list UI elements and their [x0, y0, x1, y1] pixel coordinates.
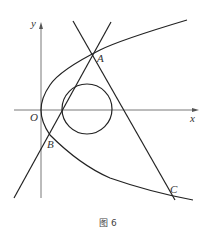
- point-B-label: B: [47, 138, 54, 150]
- inscribed-circle: [62, 84, 112, 134]
- figure-caption: 图 6: [99, 218, 117, 228]
- point-C-label: C: [170, 183, 178, 195]
- line-AC: [73, 21, 175, 200]
- diagram: y x O A B C 图 6: [0, 0, 211, 236]
- point-A-label: A: [96, 52, 104, 64]
- x-axis-label: x: [189, 112, 195, 124]
- origin-label: O: [30, 111, 38, 123]
- y-axis-arrow-icon: [39, 22, 43, 29]
- y-axis-label: y: [30, 17, 36, 29]
